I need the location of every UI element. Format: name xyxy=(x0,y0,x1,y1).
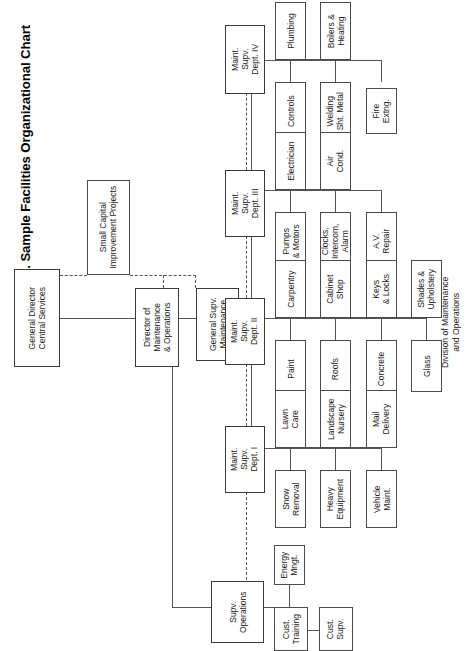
connector-dept3-row2-av xyxy=(381,190,382,212)
node-director-maintenance[interactable]: Director of Maintenance & Operations xyxy=(135,288,179,367)
node-cabinet-shop[interactable]: Cabinet Shop xyxy=(320,260,351,318)
node-paint-label: Paint xyxy=(285,359,295,378)
connector-dept2-row1-bar xyxy=(290,317,426,318)
node-electrician-label: Electrician xyxy=(285,141,295,180)
node-cabinet-shop-label: Cabinet Shop xyxy=(325,274,345,303)
node-dept-1-label: Maint. Supv. Dept. I xyxy=(230,447,261,472)
connector-smallcapital-drop-director-dashed xyxy=(163,275,164,288)
connector-dept1-row2-vehicle xyxy=(381,448,382,470)
node-shades-upholstery[interactable]: Shades & Upholstery xyxy=(411,260,442,318)
node-mail-delivery[interactable]: Mail Delivery xyxy=(366,390,397,448)
node-cust-supv[interactable]: Cust. Supv. xyxy=(319,607,353,651)
node-pumps-motors-label: Pumps & Motors xyxy=(280,224,300,258)
node-roofs-label: Roofs xyxy=(330,358,340,380)
connector-gd-to-director xyxy=(60,318,135,319)
node-carpentry[interactable]: Carpentry xyxy=(275,260,306,318)
node-boilers-heating[interactable]: Boilers & Heating xyxy=(320,2,351,60)
node-fire-extinguisher-label: Fire Extng. xyxy=(371,99,391,123)
node-carpentry-label: Carpentry xyxy=(285,270,295,307)
node-supv-operations[interactable]: Supv. Operations xyxy=(211,581,264,643)
connector-dept4-row2-welding xyxy=(335,60,336,82)
node-dept-2-label: Maint. Supv. Dept. II xyxy=(230,318,261,345)
node-landscape-nursery-label: Landscape Nursery xyxy=(325,398,345,440)
node-keys-locks[interactable]: Keys & Locks xyxy=(366,260,397,318)
connector-dept2-row2-roofs xyxy=(335,318,336,340)
connector-dept2-row2-concrete xyxy=(381,318,382,340)
connector-dept2-dept1-dashed xyxy=(246,364,247,426)
connector-dept3-row2-pumps xyxy=(290,190,291,212)
connector-dept2-row2-bar xyxy=(264,318,427,319)
node-air-cond[interactable]: Air Cond. xyxy=(320,132,351,190)
connector-gd-to-smallcapital-dashed xyxy=(60,275,87,276)
connector-dept4-row2-fire xyxy=(381,60,382,82)
node-mail-delivery-label: Mail Delivery xyxy=(371,404,391,435)
node-glass-label: Glass xyxy=(421,355,431,377)
connector-dept1-row2-heavy xyxy=(335,448,336,470)
node-plumbing-label: Plumbing xyxy=(285,13,295,48)
node-controls-label: Controls xyxy=(285,95,295,127)
node-dept-4-label: Maint. Supv. Dept. IV xyxy=(230,44,261,75)
node-clocks-intercom-alarm-label: Clocks, Intercom, Alarm xyxy=(320,223,351,258)
connector-director-to-generalsupv xyxy=(179,318,196,319)
connector-dept1-row2-bar xyxy=(264,448,382,449)
node-glass[interactable]: Glass xyxy=(411,340,442,392)
connector-smallcapital-drop-supv-dashed xyxy=(195,275,196,288)
node-small-capital[interactable]: Small Capital Improvement Projects xyxy=(87,180,130,275)
node-vehicle-maint[interactable]: Vehicle Maint. xyxy=(366,470,397,528)
node-small-capital-label: Small Capital Improvement Projects xyxy=(98,186,118,269)
connector-dept3-row2-bar xyxy=(264,190,382,191)
node-vehicle-maint-label: Vehicle Maint. xyxy=(371,485,391,512)
node-dept-3[interactable]: Maint. Supv. Dept. III xyxy=(225,170,265,237)
node-shades-upholstery-label: Shades & Upholstery xyxy=(416,269,436,310)
node-snow-removal-label: Snow Removal xyxy=(280,482,300,516)
node-heavy-equipment[interactable]: Heavy Equipment xyxy=(320,470,351,528)
node-keys-locks-label: Keys & Locks xyxy=(371,274,391,304)
connector-dept1-supvops-dashed xyxy=(246,492,247,580)
connector-director-to-supvops xyxy=(172,607,211,608)
connector-dept4-row2-controls xyxy=(290,60,291,82)
connector-dept3-dept2-dashed xyxy=(246,236,247,298)
node-energy-mngt[interactable]: Energy Mngt. xyxy=(274,545,305,585)
connector-dept3-row2-clocks xyxy=(335,190,336,212)
node-dept-4[interactable]: Maint. Supv. Dept. IV xyxy=(225,25,265,94)
caption-line-2: and Operations xyxy=(451,293,461,352)
org-chart-canvas: Figure 9.6. Sample Facilities Organizati… xyxy=(0,0,472,651)
node-general-director[interactable]: General Director Central Services xyxy=(14,269,60,367)
node-energy-mngt-label: Energy Mngt. xyxy=(279,552,299,579)
node-cust-supv-label: Cust. Supv. xyxy=(326,618,346,639)
node-av-repair-label: A.V. Repair xyxy=(371,228,391,253)
node-director-maintenance-label: Director of Maintenance & Operations xyxy=(142,303,173,353)
node-concrete-label: Concrete xyxy=(376,352,386,387)
node-landscape-nursery[interactable]: Landscape Nursery xyxy=(320,390,351,448)
node-lawn-care[interactable]: Lawn Care xyxy=(275,390,306,448)
node-air-cond-label: Air Cond. xyxy=(325,150,345,173)
node-electrician[interactable]: Electrician xyxy=(275,132,306,190)
node-boilers-heating-label: Boilers & Heating xyxy=(325,14,345,48)
node-plumbing[interactable]: Plumbing xyxy=(275,2,306,60)
connector-dept2-row2-paint xyxy=(290,318,291,340)
node-snow-removal[interactable]: Snow Removal xyxy=(275,470,306,528)
node-heavy-equipment-label: Heavy Equipment xyxy=(325,479,345,520)
node-dept-1[interactable]: Maint. Supv. Dept. I xyxy=(225,426,265,493)
connector-supvops-energy xyxy=(289,585,290,607)
node-dept-2[interactable]: Maint. Supv. Dept. II xyxy=(225,298,265,365)
node-supv-operations-label: Supv. Operations xyxy=(227,591,247,633)
node-fire-extinguisher[interactable]: Fire Extng. xyxy=(366,88,397,134)
figure-caption: Division of Maintenance and Operations xyxy=(440,277,462,368)
connector-dept2-row2-glass xyxy=(426,318,427,340)
node-lawn-care-label: Lawn Care xyxy=(280,409,300,429)
node-dept-3-label: Maint. Supv. Dept. III xyxy=(230,189,261,219)
node-general-director-label: General Director Central Services xyxy=(27,287,47,349)
connector-dept1-row2-snow xyxy=(290,448,291,470)
node-cust-training-label: Cust. Training xyxy=(281,614,301,644)
node-cust-training[interactable]: Cust. Training xyxy=(274,607,308,651)
node-welding-sht-metal-label: Welding Sht. Metal xyxy=(325,92,345,130)
